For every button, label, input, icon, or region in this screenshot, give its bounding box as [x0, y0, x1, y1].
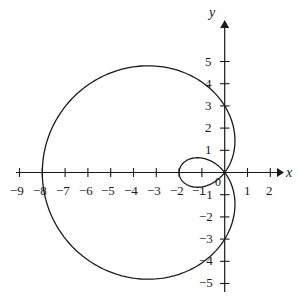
y-tick-label-3: 3 [205, 99, 212, 112]
x-tick-label--3: −3 [147, 184, 161, 197]
y-tick-label-2: 2 [205, 121, 212, 134]
y-tick-label--3: −3 [199, 232, 213, 245]
plot-canvas [0, 0, 298, 299]
x-tick-label--9: −9 [10, 184, 24, 197]
y-tick-label--2: −2 [199, 210, 213, 223]
x-tick-label--8: −8 [33, 184, 47, 197]
x-tick-label--6: −6 [79, 184, 93, 197]
y-tick-label--4: −4 [199, 254, 213, 267]
x-axis [16, 168, 284, 177]
x-tick-label-2: 2 [266, 184, 273, 197]
y-axis-label: y [209, 6, 215, 20]
y-tick-label-5: 5 [205, 55, 212, 68]
y-axis-arrowhead [220, 20, 229, 28]
y-tick-label-4: 4 [205, 77, 212, 90]
x-axis-arrowhead [277, 168, 284, 177]
x-tick-label--5: −5 [101, 184, 115, 197]
y-tick-label--1: −1 [199, 188, 213, 201]
y-tick-label-1: 1 [205, 143, 212, 156]
x-axis-label: x [286, 166, 292, 180]
y-tick-label--5: −5 [199, 276, 213, 289]
polar-curve-figure: y x −9 −8 −7 −6 −5 −4 −3 −2 −1 1 2 5 4 3… [0, 0, 298, 299]
origin-label: 0 [215, 176, 221, 188]
x-tick-label--2: −2 [170, 184, 184, 197]
x-tick-label--7: −7 [56, 184, 70, 197]
y-axis [220, 20, 230, 292]
x-tick-label--4: −4 [124, 184, 138, 197]
x-tick-label-1: 1 [244, 184, 251, 197]
